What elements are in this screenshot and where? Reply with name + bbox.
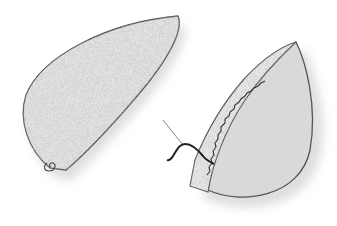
sewing-illustration — [0, 0, 337, 226]
right-felt-piece — [190, 42, 323, 208]
left-felt-piece — [23, 16, 185, 180]
needle — [163, 120, 183, 145]
illustration — [0, 0, 337, 226]
